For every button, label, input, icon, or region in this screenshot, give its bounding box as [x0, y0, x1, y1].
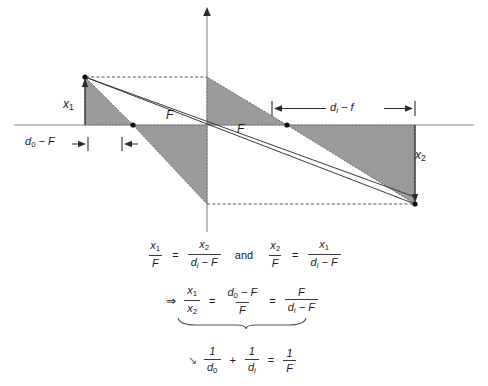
implies-arrow-icon: ⇒	[166, 294, 176, 308]
fraction-x2-over-F: x2 F	[267, 239, 283, 269]
lens-axis-arrowhead	[203, 7, 211, 16]
equals-sign: =	[292, 249, 298, 261]
equation-row-2: ⇒ x1 x2 = d0 − F F = F di − F	[0, 284, 488, 317]
fraction-1-over-di: 1 di	[245, 345, 259, 375]
dim-focus-arrowhead	[124, 141, 132, 147]
dimension-label-object: d0 − F	[25, 135, 55, 149]
fraction-d0-minus-F-over-F: d0 − F F	[224, 286, 260, 316]
dimension-label-image: di − f	[330, 101, 353, 115]
equation-row-1: x1 F = x2 di − F and x2 F = x1 di − F	[0, 238, 488, 271]
dot-rear-focus	[284, 122, 289, 127]
fraction-x1-over-x2: x1 x2	[184, 284, 200, 317]
dim-right-arrowhead-right	[405, 105, 413, 111]
equals-sign: =	[172, 249, 178, 261]
fraction-x2-over-di-minus-F: x2 di − F	[188, 238, 221, 271]
underbrace-wrapper	[0, 317, 488, 329]
focal-label-left: F	[166, 108, 173, 122]
plus-sign: +	[230, 354, 236, 366]
down-right-arrow-icon: ↘	[188, 354, 197, 367]
shaded-triangle-image-upper	[207, 77, 287, 125]
fraction-x1-over-F: x1 F	[147, 239, 163, 269]
underbrace-icon	[0, 317, 488, 329]
focal-label-right: F	[237, 122, 244, 136]
shaded-triangle-image-lower	[287, 125, 415, 204]
connector-and: and	[235, 249, 253, 261]
shaded-triangle-object-upper	[85, 77, 133, 125]
dot-image-bottom	[412, 201, 417, 206]
shaded-triangle-object-lower	[133, 125, 207, 204]
dim-right-arrowhead-left	[274, 105, 282, 111]
equation-row-3: ↘ 1 d0 + 1 di = 1 F	[0, 345, 488, 375]
object-height-label: x1	[63, 97, 74, 112]
equation-block: x1 F = x2 di − F and x2 F = x1 di − F ⇒	[0, 238, 488, 376]
dot-object-top	[82, 74, 87, 79]
dim-left-arrowhead	[78, 141, 86, 147]
fraction-1-over-F: 1 F	[283, 347, 296, 375]
equals-sign: =	[269, 295, 275, 307]
fraction-1-over-d0: 1 d0	[204, 345, 221, 375]
equals-sign: =	[209, 295, 215, 307]
equals-sign: =	[268, 354, 274, 366]
image-height-label: x2	[415, 148, 426, 163]
figure-root: x1 x2 F F d0 − F di − f x1 F = x2 di − F…	[0, 0, 488, 386]
dot-front-focus	[130, 122, 135, 127]
fraction-x1-over-di-minus-F: x1 di − F	[308, 238, 341, 271]
fraction-F-over-di-minus-F: F di − F	[285, 286, 318, 316]
